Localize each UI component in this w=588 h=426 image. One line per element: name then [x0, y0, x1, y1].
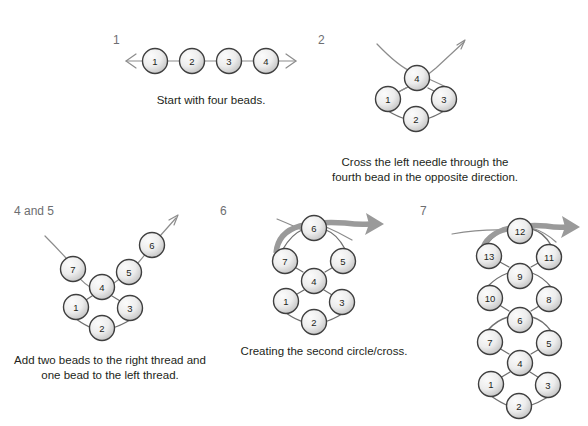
bead-number: 2 [311, 317, 316, 328]
bead-7-2: 2 [507, 394, 532, 419]
bead-2-1: 1 [376, 87, 401, 112]
panel-7: 7 [420, 204, 580, 419]
bead-number: 7 [487, 337, 492, 348]
step-label-2: 2 [318, 33, 325, 47]
step-label-6: 6 [220, 204, 227, 218]
bead-7-7: 7 [478, 330, 503, 355]
bead-2-3: 3 [432, 87, 457, 112]
caption-step-6: Creating the second circle/cross. [241, 345, 408, 357]
caption-step-4and5-line-1: Add two beads to the right thread and [14, 354, 206, 366]
step-label-4and5: 4 and 5 [14, 204, 54, 218]
bead-number: 13 [484, 251, 495, 262]
bead-6-2: 2 [302, 310, 327, 335]
bead-7-12: 12 [508, 219, 533, 244]
bead-number: 1 [385, 94, 390, 105]
bead-number: 6 [149, 240, 154, 251]
bead-number: 3 [441, 94, 446, 105]
bead-number: 2 [99, 323, 104, 334]
bead-6-5: 5 [331, 249, 356, 274]
bead-number: 6 [517, 315, 522, 326]
bead-number: 4 [517, 358, 522, 369]
bead-number: 5 [126, 267, 131, 278]
bead-6-7: 7 [273, 249, 298, 274]
bead-45-7: 7 [61, 257, 86, 282]
panel-4and5: 4 and 5 6 5 7 [14, 204, 206, 381]
bead-7-4: 4 [508, 351, 533, 376]
bead-number: 3 [226, 56, 231, 67]
bead-number: 3 [339, 297, 344, 308]
beading-instructions-figure: 1 1 2 3 4 Start with four beads. [0, 0, 588, 426]
bead-7-13: 13 [477, 244, 502, 269]
bead-45-6: 6 [140, 233, 165, 258]
panel-1: 1 1 2 3 4 Start with four beads. [113, 33, 296, 106]
bead-number: 1 [73, 302, 78, 313]
bead-number: 1 [283, 296, 288, 307]
step-label-7: 7 [420, 204, 427, 218]
bead-1-1: 1 [143, 49, 168, 74]
bead-number: 8 [546, 294, 551, 305]
bead-number: 12 [515, 226, 526, 237]
bead-number: 4 [414, 73, 419, 84]
panel-6: 6 6 7 5 [220, 204, 407, 357]
bead-number: 5 [546, 338, 551, 349]
bead-7-8: 8 [537, 287, 562, 312]
bead-number: 4 [99, 282, 104, 293]
bead-number: 3 [545, 380, 550, 391]
bead-45-3: 3 [118, 296, 143, 321]
bead-6-3: 3 [330, 290, 355, 315]
bead-number: 2 [413, 114, 418, 125]
bead-7-11: 11 [537, 245, 562, 270]
bead-45-5: 5 [117, 260, 142, 285]
caption-step-4and5-line-2: one bead to the left thread. [41, 369, 178, 381]
bead-7-5: 5 [537, 331, 562, 356]
bead-7-10: 10 [478, 286, 503, 311]
bead-45-2: 2 [90, 316, 115, 341]
bead-1-3: 3 [217, 49, 242, 74]
bead-6-6: 6 [302, 216, 327, 241]
bead-2-2: 2 [404, 107, 429, 132]
bead-7-3: 3 [536, 373, 561, 398]
caption-step-1: Start with four beads. [157, 94, 266, 106]
bead-number: 1 [488, 379, 493, 390]
bead-7-1: 1 [479, 372, 504, 397]
bead-number: 2 [516, 401, 521, 412]
bead-2-4: 4 [405, 66, 430, 91]
bead-7-9: 9 [508, 264, 533, 289]
bead-number: 5 [340, 256, 345, 267]
bead-45-4: 4 [90, 275, 115, 300]
bead-1-2: 2 [180, 49, 205, 74]
bead-number: 3 [127, 303, 132, 314]
bead-number: 7 [70, 264, 75, 275]
bead-6-4: 4 [302, 269, 327, 294]
bead-7-6: 6 [508, 308, 533, 333]
bead-number: 11 [544, 252, 554, 263]
panel-2: 2 4 1 3 2 Cross the l [318, 33, 518, 183]
bead-number: 7 [282, 256, 287, 267]
bead-number: 4 [311, 276, 316, 287]
caption-step-2-line-2: fourth bead in the opposite direction. [332, 171, 518, 183]
bead-number: 10 [485, 293, 496, 304]
caption-step-2-line-1: Cross the left needle through the [342, 156, 509, 168]
bead-number: 1 [152, 56, 157, 67]
bead-6-1: 1 [274, 289, 299, 314]
bead-number: 9 [517, 271, 522, 282]
bead-45-1: 1 [64, 295, 89, 320]
bead-number: 2 [189, 56, 194, 67]
bead-number: 6 [311, 223, 316, 234]
step-label-1: 1 [113, 33, 120, 47]
bead-number: 4 [263, 56, 268, 67]
bead-1-4: 4 [254, 49, 279, 74]
